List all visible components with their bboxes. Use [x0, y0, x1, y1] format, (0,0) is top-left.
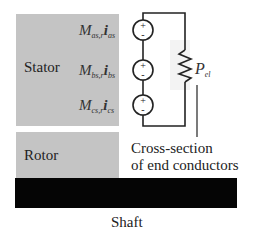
- annotation-line-2: of end conductors: [131, 157, 238, 174]
- minus-sign: -: [141, 29, 144, 40]
- minus-sign: -: [141, 104, 144, 115]
- circuit-schematic: + - + - + -: [0, 0, 258, 233]
- annotation-line-1: Cross-section: [131, 140, 213, 157]
- bottom-wire: [143, 82, 185, 126]
- top-wire: [143, 13, 185, 50]
- resistor-zigzag-icon: [179, 50, 191, 82]
- minus-sign: -: [141, 69, 144, 80]
